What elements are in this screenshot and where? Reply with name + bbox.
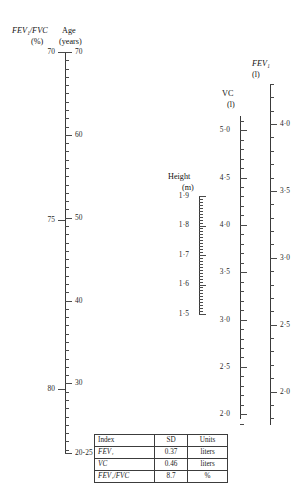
axis-tick-minor xyxy=(65,259,69,260)
axis-tick-minor xyxy=(270,97,274,98)
axis-tick-minor xyxy=(65,160,69,161)
axis-tick-minor xyxy=(65,168,69,169)
axis-tick-minor xyxy=(65,193,69,194)
axis-tick-major xyxy=(65,301,72,302)
axis-vc-header-unit: (l) xyxy=(227,100,235,109)
table-header-row: Index SD Units xyxy=(95,435,228,447)
axis-tick-major xyxy=(65,135,72,136)
axis-height-label: 1·6 xyxy=(179,280,189,287)
axis-tick-minor xyxy=(199,290,203,291)
table-cell-sd: 8.7 xyxy=(154,471,187,483)
axis-tick-minor xyxy=(65,151,69,152)
axis-tick-minor xyxy=(270,137,274,138)
axis-tick-minor xyxy=(270,418,274,419)
axis-tick-minor xyxy=(199,252,203,253)
axis-tick-minor xyxy=(240,357,244,358)
axis-tick-minor xyxy=(240,149,244,150)
axis-age-header-unit: (years) xyxy=(59,37,82,46)
axis-tick-minor xyxy=(199,308,203,309)
axis-tick-minor xyxy=(270,365,274,366)
axis-tick-minor xyxy=(65,102,69,103)
axis-tick-minor xyxy=(240,159,244,160)
axis-tick-minor xyxy=(65,367,69,368)
axis-tick-minor xyxy=(65,342,69,343)
axis-tick-minor xyxy=(240,348,244,349)
axis-tick-minor xyxy=(270,164,274,165)
axis-tick-minor xyxy=(65,209,69,210)
axis-height-label: 1·5 xyxy=(179,310,189,317)
axis-tick-minor xyxy=(270,378,274,379)
axis-tick-major xyxy=(270,392,277,393)
table-cell-sd: 0.37 xyxy=(154,447,187,459)
axis-tick-major xyxy=(58,52,65,53)
sd-reference-table: Index SD Units FEV₁0.37litersVC0.46liter… xyxy=(94,434,228,483)
axis-tick-minor xyxy=(270,218,274,219)
axis-tick-minor xyxy=(240,206,244,207)
axis-vc-label: 4·5 xyxy=(220,174,230,181)
axis-tick-minor xyxy=(65,325,69,326)
axis-tick-minor xyxy=(270,151,274,152)
axis-fev1fvc-header-title: FEV₁/FVC xyxy=(12,26,48,35)
axis-fev1fvc-header-unit: (%) xyxy=(31,37,43,46)
axis-tick-minor xyxy=(65,334,69,335)
axis-tick-minor xyxy=(240,140,244,141)
axis-tick-major xyxy=(58,220,65,221)
axis-tick-major xyxy=(199,314,206,315)
axis-tick-minor xyxy=(199,228,203,229)
axis-tick-minor xyxy=(199,293,203,294)
axis-tick-major xyxy=(58,389,65,390)
axis-tick-major xyxy=(240,272,247,273)
axis-tick-minor xyxy=(240,196,244,197)
axis-tick-minor xyxy=(65,284,69,285)
table-cell-units: % xyxy=(188,471,228,483)
axis-tick-minor xyxy=(65,375,69,376)
axis-tick-minor xyxy=(65,60,69,61)
table-header-sd: SD xyxy=(154,435,187,447)
axis-tick-minor xyxy=(270,178,274,179)
axis-tick-minor xyxy=(199,231,203,232)
axis-tick-minor xyxy=(65,392,69,393)
table-cell-index: VC xyxy=(95,459,155,471)
axis-tick-minor xyxy=(270,111,274,112)
axis-fev1-header-title: FEV₁ xyxy=(252,59,270,68)
axis-tick-major xyxy=(240,178,247,179)
table-row: FEV₁0.37liters xyxy=(95,447,228,459)
axis-height-label: 1·7 xyxy=(179,251,189,258)
axis-tick-major xyxy=(65,383,72,384)
axis-fev1fvc-label: 70 xyxy=(47,48,55,55)
axis-tick-major xyxy=(270,325,277,326)
axis-tick-minor xyxy=(65,234,69,235)
axis-tick-minor xyxy=(65,267,69,268)
axis-tick-minor xyxy=(240,310,244,311)
axis-tick-minor xyxy=(199,217,203,218)
axis-tick-minor xyxy=(65,201,69,202)
axis-fev1-label: 3·0 xyxy=(280,254,290,261)
axis-tick-minor xyxy=(199,243,203,244)
axis-tick-minor xyxy=(199,240,203,241)
table-cell-units: liters xyxy=(188,459,228,471)
axis-tick-minor xyxy=(65,127,69,128)
axis-tick-minor xyxy=(65,185,69,186)
axis-tick-minor xyxy=(199,249,203,250)
axis-tick-major xyxy=(270,258,277,259)
axis-tick-minor xyxy=(65,143,69,144)
axis-tick-minor xyxy=(199,237,203,238)
axis-tick-minor xyxy=(240,121,244,122)
axis-tick-minor xyxy=(240,282,244,283)
axis-tick-minor xyxy=(270,285,274,286)
axis-tick-major xyxy=(240,225,247,226)
axis-tick-major xyxy=(240,130,247,131)
table-row: FEV₁/FVC8.7% xyxy=(95,471,228,483)
axis-age-label: 20-25 xyxy=(75,449,93,456)
axis-tick-minor xyxy=(199,279,203,280)
axis-tick-major xyxy=(199,255,206,256)
axis-tick-minor xyxy=(270,244,274,245)
axis-tick-minor xyxy=(199,305,203,306)
axis-tick-minor xyxy=(65,425,69,426)
axis-tick-minor xyxy=(199,214,203,215)
axis-tick-minor xyxy=(199,282,203,283)
axis-tick-minor xyxy=(240,215,244,216)
axis-fev1-label: 2·5 xyxy=(280,321,290,328)
axis-tick-minor xyxy=(65,317,69,318)
axis-fev1fvc-label: 80 xyxy=(47,385,55,392)
